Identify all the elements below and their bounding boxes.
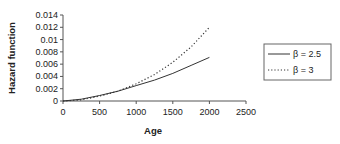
hazard-chart: 00.0020.0040.0060.0080.010.0120.014 0500… bbox=[0, 0, 340, 144]
legend-label-beta-3: β = 3 bbox=[293, 65, 313, 75]
y-tick-label: 0.012 bbox=[35, 22, 58, 32]
x-tick-label: 1000 bbox=[126, 107, 146, 117]
y-tick-label: 0.004 bbox=[35, 71, 58, 81]
y-tick-label: 0.014 bbox=[35, 10, 58, 20]
legend-label-beta-2-5: β = 2.5 bbox=[293, 49, 321, 59]
y-axis-ticks: 00.0020.0040.0060.0080.010.0120.014 bbox=[35, 10, 63, 106]
y-tick-label: 0 bbox=[53, 96, 58, 106]
x-tick-label: 2000 bbox=[199, 107, 219, 117]
y-tick-label: 0.006 bbox=[35, 59, 58, 69]
series-beta-3-line bbox=[63, 27, 209, 101]
legend: β = 2.5 β = 3 bbox=[264, 44, 331, 80]
y-tick-label: 0.01 bbox=[40, 35, 58, 45]
y-tick-label: 0.002 bbox=[35, 84, 58, 94]
series-beta-2-5-line bbox=[63, 57, 209, 101]
x-tick-label: 0 bbox=[60, 107, 65, 117]
x-tick-label: 500 bbox=[92, 107, 107, 117]
x-tick-label: 2500 bbox=[236, 107, 256, 117]
y-axis-label: Hazard function bbox=[6, 22, 17, 94]
x-axis-ticks: 05001000150020002500 bbox=[60, 101, 256, 117]
y-tick-label: 0.008 bbox=[35, 47, 58, 57]
x-axis-label: Age bbox=[144, 125, 162, 136]
x-tick-label: 1500 bbox=[163, 107, 183, 117]
